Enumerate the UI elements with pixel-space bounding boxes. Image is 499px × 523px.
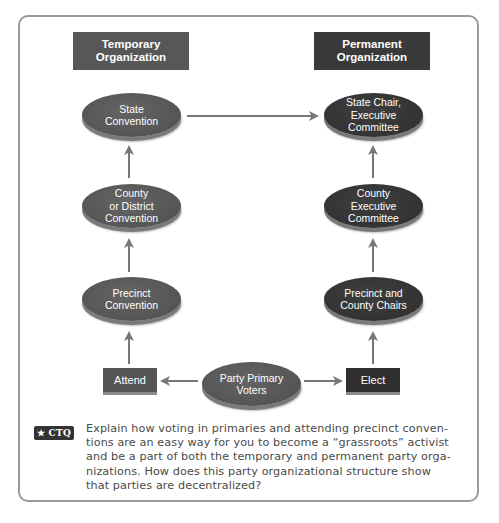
county-district-convention-node: County or District Convention xyxy=(82,184,181,228)
precinct-county-chairs-node: Precinct and County Chairs xyxy=(324,277,423,321)
precinct-convention-node: Precinct Convention xyxy=(82,277,181,321)
ctq-line: tions are an easy way for you to become … xyxy=(86,436,466,450)
state-convention-node: State Convention xyxy=(82,93,181,137)
county-executive-committee-node: County Executive Committee xyxy=(324,184,423,228)
attend-box: Attend xyxy=(103,368,157,392)
state-chair-executive-committee-node: State Chair, Executive Committee xyxy=(324,93,423,137)
elect-box: Elect xyxy=(346,368,400,392)
ctq-badge: ★ CTQ xyxy=(34,426,74,440)
ctq-line: and be a part of both the temporary and … xyxy=(86,450,466,464)
ctq-question: Explain how voting in primaries and atte… xyxy=(86,422,466,493)
temporary-organization-header: Temporary Organization xyxy=(73,32,189,70)
ctq-line: Explain how voting in primaries and atte… xyxy=(86,422,466,436)
permanent-organization-header: Permanent Organization xyxy=(314,32,430,70)
ctq-line: that parties are decentralized? xyxy=(86,479,466,493)
party-primary-voters-node: Party Primary Voters xyxy=(202,362,301,406)
ctq-line: nizations. How does this party organizat… xyxy=(86,465,466,479)
